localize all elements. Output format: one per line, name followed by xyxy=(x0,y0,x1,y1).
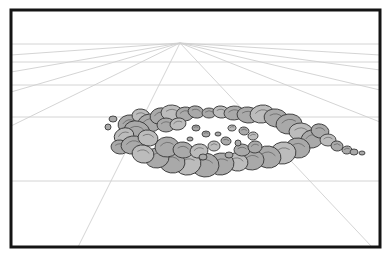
illustration-canvas xyxy=(0,0,389,260)
scatter-stone-3 xyxy=(109,116,117,122)
boulder-body-47 xyxy=(228,124,237,131)
boulder-46 xyxy=(202,131,210,137)
boulder-body-50 xyxy=(248,132,259,141)
scatter-stone-2 xyxy=(359,151,365,155)
scatter-stone-5 xyxy=(187,137,193,141)
scatter-stone-4 xyxy=(105,124,111,130)
boulder-body-46 xyxy=(202,131,210,137)
scatter-stone-1 xyxy=(350,149,358,155)
boulder-44 xyxy=(208,141,220,151)
scatter-stone-9 xyxy=(225,152,233,158)
scatter-stone-7 xyxy=(235,140,241,146)
perspective-scene xyxy=(0,0,389,260)
boulder-47 xyxy=(228,124,237,131)
scatter-stone-6 xyxy=(215,132,221,136)
boulder-49 xyxy=(192,125,200,131)
boulder-50 xyxy=(248,132,259,141)
boulder-body-49 xyxy=(192,125,200,131)
boulder-body-44 xyxy=(208,141,220,151)
scatter-stone-8 xyxy=(199,154,207,160)
